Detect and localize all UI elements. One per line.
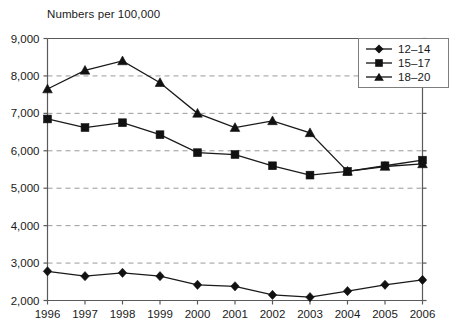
x-tick-label: 1996 <box>35 308 61 320</box>
x-tick-label: 2000 <box>185 308 211 320</box>
y-tick-label: 5,000 <box>11 182 40 194</box>
data-point <box>268 116 278 125</box>
x-tick-label: 1999 <box>147 308 173 320</box>
x-tick-label: 2004 <box>335 308 361 320</box>
data-point <box>81 124 89 132</box>
series-12-14 <box>43 267 426 302</box>
y-tick-label: 3,000 <box>11 257 40 269</box>
y-tick-label: 8,000 <box>11 70 40 82</box>
legend-item-1: 15–17 <box>359 56 448 70</box>
data-point <box>193 280 201 289</box>
chart-legend: 12–14 15–17 18–20 <box>358 38 449 88</box>
data-point <box>231 151 239 159</box>
x-tick-label: 1998 <box>110 308 136 320</box>
data-point <box>381 280 389 289</box>
data-point <box>43 84 53 93</box>
data-point <box>44 115 52 123</box>
data-point <box>156 272 164 281</box>
data-point <box>268 290 276 299</box>
x-axis-tick-labels: 1996199719981999200020012002200320042005… <box>35 308 436 320</box>
legend-label-0: 12–14 <box>398 43 430 55</box>
y-tick-label: 6,000 <box>11 145 40 157</box>
data-point <box>156 131 164 139</box>
legend-label-1: 15–17 <box>398 57 430 69</box>
data-point <box>119 119 127 127</box>
legend-marker-square-icon <box>364 57 394 69</box>
y-tick-label: 4,000 <box>11 220 40 232</box>
data-point <box>231 282 239 291</box>
x-tick-label: 2002 <box>260 308 286 320</box>
x-tick-label: 2003 <box>297 308 323 320</box>
data-point <box>194 149 202 157</box>
x-tick-label: 2001 <box>222 308 248 320</box>
y-tick-label: 9,000 <box>11 33 40 45</box>
data-point <box>155 78 165 87</box>
x-tick-label: 1997 <box>72 308 98 320</box>
legend-item-2: 18–20 <box>359 70 448 84</box>
data-point <box>43 267 51 276</box>
y-axis-tick-labels: 2,0003,0004,0005,0006,0007,0008,0009,000 <box>11 33 40 307</box>
data-point <box>81 272 89 281</box>
legend-label-2: 18–20 <box>398 71 430 83</box>
data-point <box>118 56 128 65</box>
line-chart: Numbers per 100,000 2,0003,0004,0005,000… <box>0 0 457 333</box>
data-series <box>43 56 428 302</box>
data-point <box>118 268 126 277</box>
data-point <box>418 275 426 284</box>
data-point <box>193 108 203 117</box>
legend-item-0: 12–14 <box>359 42 448 56</box>
x-tick-label: 2005 <box>372 308 398 320</box>
data-point <box>269 162 277 170</box>
y-tick-label: 7,000 <box>11 107 40 119</box>
data-point <box>343 287 351 296</box>
x-tick-label: 2006 <box>410 308 436 320</box>
legend-marker-diamond-icon <box>364 43 394 55</box>
data-point <box>306 171 314 179</box>
y-tick-label: 2,000 <box>11 295 40 307</box>
legend-marker-triangle-icon <box>364 71 394 83</box>
